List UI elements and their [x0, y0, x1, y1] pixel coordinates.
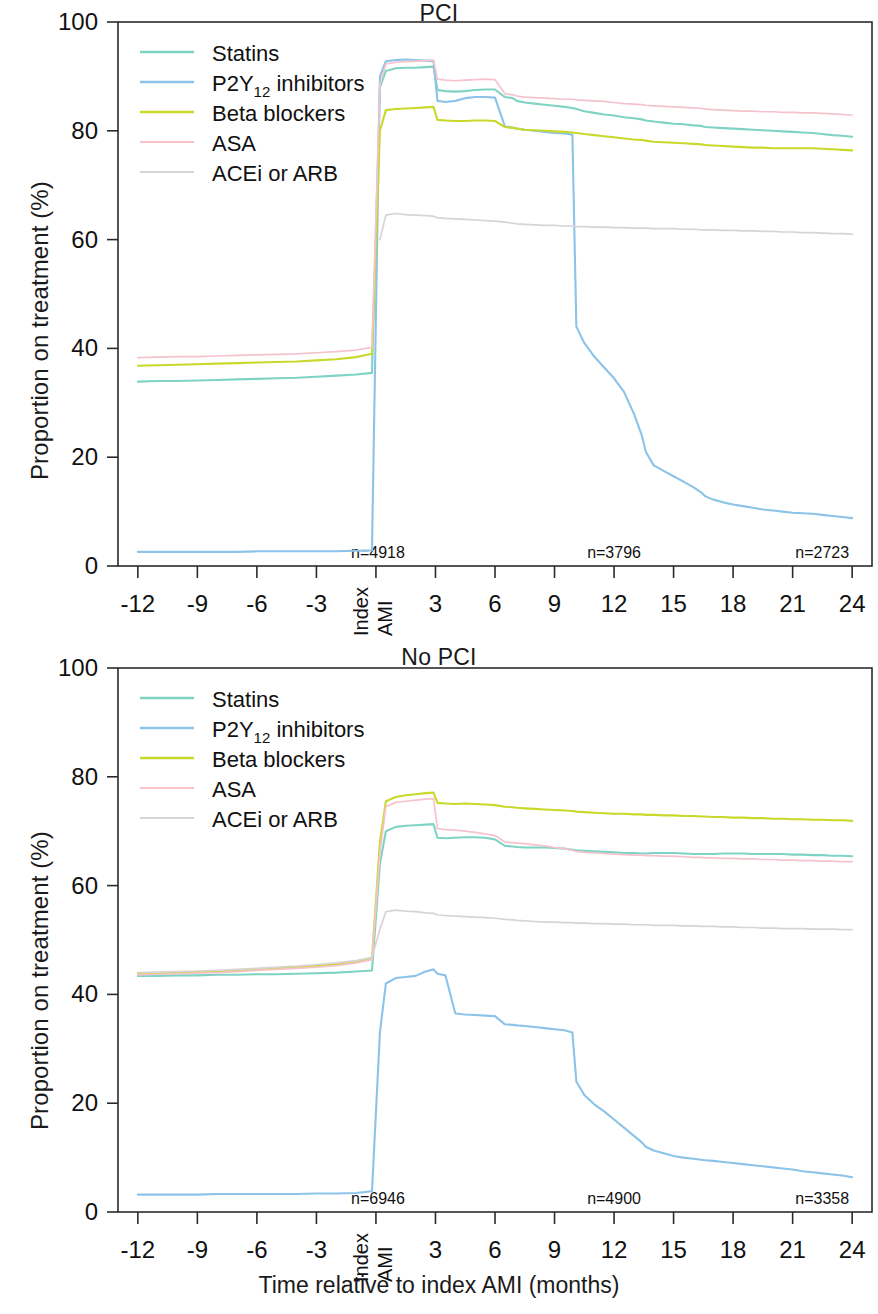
x-tick-label-index: Index — [350, 587, 372, 636]
chart-panel-pci: PCI Proportion on treatment (%) 02040608… — [0, 0, 878, 648]
x-tick-label: 24 — [839, 590, 866, 617]
x-tick-label: 3 — [429, 590, 442, 617]
legend-label: ASA — [212, 131, 256, 156]
y-tick-label: 20 — [71, 443, 98, 470]
series-line — [138, 824, 852, 976]
legend-label: ACEi or ARB — [212, 161, 338, 186]
y-tick-label: 0 — [85, 552, 98, 579]
legend-label: Statins — [212, 41, 279, 66]
chart-svg-pci: 020406080100-12-9-6-3IndexAMI36912151821… — [0, 0, 878, 648]
sample-size-annotation: n=3796 — [587, 544, 641, 561]
legend-label: Beta blockers — [212, 747, 345, 772]
chart-svg-nopci: 020406080100-12-9-6-3IndexAMI36912151821… — [0, 640, 878, 1300]
x-tick-label: -12 — [120, 1236, 155, 1263]
y-tick-label: 60 — [71, 226, 98, 253]
x-tick-label: -6 — [246, 590, 267, 617]
legend-label: P2Y12 inhibitors — [212, 71, 364, 100]
x-tick-label: 6 — [488, 590, 501, 617]
x-tick-label: 6 — [488, 1236, 501, 1263]
x-tick-label: 15 — [660, 1236, 687, 1263]
x-tick-label: -6 — [246, 1236, 267, 1263]
x-tick-label: 18 — [720, 590, 747, 617]
y-tick-label: 60 — [71, 872, 98, 899]
x-tick-label: -3 — [306, 590, 327, 617]
x-tick-label: 9 — [548, 590, 561, 617]
y-tick-label: 40 — [71, 980, 98, 1007]
figure-page: PCI Proportion on treatment (%) 02040608… — [0, 0, 878, 1314]
sample-size-annotation: n=2723 — [795, 544, 849, 561]
x-tick-label: 21 — [779, 590, 806, 617]
x-tick-label: -12 — [120, 590, 155, 617]
chart-title-pci: PCI — [0, 0, 878, 27]
x-tick-label: -9 — [187, 1236, 208, 1263]
x-tick-label: 12 — [601, 590, 628, 617]
x-tick-label: 24 — [839, 1236, 866, 1263]
sample-size-annotation: n=4900 — [587, 1190, 641, 1207]
x-tick-label: 15 — [660, 590, 687, 617]
y-tick-label: 0 — [85, 1198, 98, 1225]
legend-label: ASA — [212, 777, 256, 802]
series-line — [138, 969, 852, 1194]
y-axis-label-pci: Proportion on treatment (%) — [26, 181, 54, 480]
y-tick-label: 80 — [71, 763, 98, 790]
x-tick-label: 3 — [429, 1236, 442, 1263]
series-line — [138, 910, 852, 973]
series-line — [380, 213, 852, 239]
x-tick-label: 21 — [779, 1236, 806, 1263]
chart-title-nopci: No PCI — [0, 644, 878, 671]
x-tick-label: 12 — [601, 1236, 628, 1263]
y-tick-label: 80 — [71, 117, 98, 144]
legend-label: Statins — [212, 687, 279, 712]
sample-size-annotation: n=3358 — [795, 1190, 849, 1207]
x-tick-label: -3 — [306, 1236, 327, 1263]
y-axis-label-nopci: Proportion on treatment (%) — [26, 831, 54, 1130]
x-tick-label-ami: AMI — [374, 600, 396, 636]
legend-label: ACEi or ARB — [212, 807, 338, 832]
x-axis-label: Time relative to index AMI (months) — [0, 1272, 878, 1299]
y-tick-label: 20 — [71, 1089, 98, 1116]
legend-label: Beta blockers — [212, 101, 345, 126]
x-tick-label: 18 — [720, 1236, 747, 1263]
x-tick-label: 9 — [548, 1236, 561, 1263]
legend-label: P2Y12 inhibitors — [212, 717, 364, 746]
x-tick-label: -9 — [187, 590, 208, 617]
chart-panel-nopci: No PCI Proportion on treatment (%) 02040… — [0, 640, 878, 1314]
y-tick-label: 40 — [71, 334, 98, 361]
sample-size-annotation: n=4918 — [351, 544, 405, 561]
